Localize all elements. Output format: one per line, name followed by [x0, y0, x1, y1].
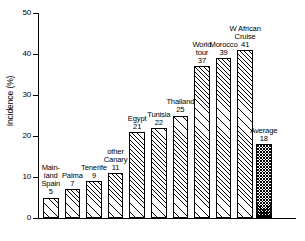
plot-area: Main-landSpain5Palma7Tenerife9otherCanar… — [38, 13, 296, 218]
bar-group: Egypt21 — [129, 13, 145, 218]
bar-value: 11 — [104, 164, 128, 172]
y-tick-value: 30 — [1, 91, 31, 99]
bar-chart: Incidence (%) 01020304050 Main-landSpain… — [0, 0, 305, 241]
bar-group: Tunisia22 — [151, 13, 167, 218]
y-axis-title: Incidence (%) — [5, 61, 15, 141]
y-tick-label: 40 — [0, 50, 31, 58]
bar-group: otherCanary11 — [108, 13, 124, 218]
bar-label: Average18 — [250, 127, 277, 143]
y-tick-label: 10 — [0, 173, 31, 181]
bar — [173, 116, 189, 219]
bar-group: Thailand25 — [173, 13, 189, 218]
y-tick-value: 0 — [1, 214, 31, 222]
y-tick-label: 50 — [0, 9, 31, 17]
y-tick-label: 30 — [0, 91, 31, 99]
bar-label: Egypt21 — [128, 115, 147, 131]
bar-group: Tenerife9 — [86, 13, 102, 218]
bar-group: W AfricanCruise41 — [237, 13, 253, 218]
y-tick-value: 50 — [1, 9, 31, 17]
bar-average — [256, 144, 272, 218]
bar-value: 22 — [147, 119, 170, 127]
bar-value: 18 — [250, 135, 277, 143]
bar — [194, 66, 210, 218]
x-axis-line — [38, 218, 296, 219]
bar-group: Worldtour37 — [194, 13, 210, 218]
bar-value: 7 — [62, 180, 83, 188]
bar-value: 37 — [192, 57, 211, 65]
bar-value: 9 — [81, 172, 107, 180]
bar — [86, 181, 102, 218]
bar-label: Palma7 — [62, 172, 83, 188]
y-tick-value: 40 — [1, 50, 31, 58]
bar-value: 39 — [210, 49, 238, 57]
bar — [216, 58, 232, 218]
bar-value: 25 — [166, 106, 194, 114]
bar — [108, 173, 124, 218]
y-tick-label: 20 — [0, 132, 31, 140]
y-tick-value: 20 — [1, 132, 31, 140]
bar — [129, 132, 145, 218]
bar-group: Main-landSpain5 — [43, 13, 59, 218]
bar-label: Main-landSpain5 — [41, 164, 60, 196]
bar — [43, 198, 59, 219]
bar — [151, 128, 167, 218]
y-tick-value: 10 — [1, 173, 31, 181]
bar-label: Thailand25 — [166, 98, 194, 114]
y-tick-label: 0 — [0, 214, 31, 222]
bar — [65, 189, 81, 218]
bar-group: Palma7 — [65, 13, 81, 218]
bar-value: 5 — [41, 188, 60, 196]
bar-label: otherCanary11 — [104, 148, 128, 172]
bar-value: 21 — [128, 123, 147, 131]
bar-group: Average18 — [256, 13, 272, 218]
